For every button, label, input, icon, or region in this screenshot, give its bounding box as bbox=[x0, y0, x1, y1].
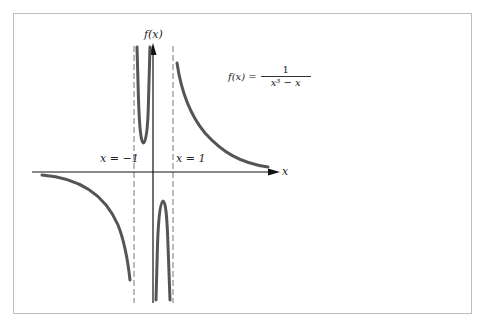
asymptote-label-neg1: x = −1 bbox=[100, 152, 139, 165]
formula-numerator: 1 bbox=[261, 64, 311, 77]
curve-branch-mid-lower bbox=[156, 201, 170, 300]
plot-canvas bbox=[0, 0, 488, 327]
formula-fraction: 1 x³ − x bbox=[261, 64, 311, 89]
function-formula: f(x) = 1 x³ − x bbox=[228, 64, 311, 89]
x-axis-arrow-icon bbox=[268, 169, 280, 176]
x-axis-label: x bbox=[282, 165, 288, 178]
asymptote-label-1: x = 1 bbox=[176, 152, 205, 165]
curve-branch-left bbox=[42, 175, 130, 280]
y-axis-label: f(x) bbox=[144, 28, 163, 41]
formula-denominator: x³ − x bbox=[271, 77, 301, 89]
formula-lhs: f(x) = bbox=[228, 71, 257, 82]
curve-branch-mid-upper bbox=[137, 47, 150, 143]
